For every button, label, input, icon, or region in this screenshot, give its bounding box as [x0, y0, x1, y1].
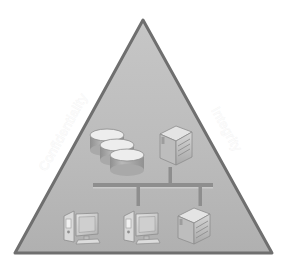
server-box-icon	[178, 208, 210, 244]
drop-up-server-top	[169, 167, 173, 185]
bus-line-highlight	[93, 187, 213, 189]
server-top-node	[160, 126, 192, 165]
server-box-icon	[160, 126, 192, 165]
drop-down-server-bottom	[199, 185, 203, 206]
server-bottom-node	[178, 208, 210, 244]
database-cylinder-icon	[110, 149, 144, 176]
cia-triad-diagram: Confidentiality Integrity	[0, 0, 287, 266]
bus-line	[93, 183, 213, 187]
cia-triad-canvas: Confidentiality Integrity	[0, 0, 287, 266]
drop-down-workstation-middle	[137, 185, 141, 206]
